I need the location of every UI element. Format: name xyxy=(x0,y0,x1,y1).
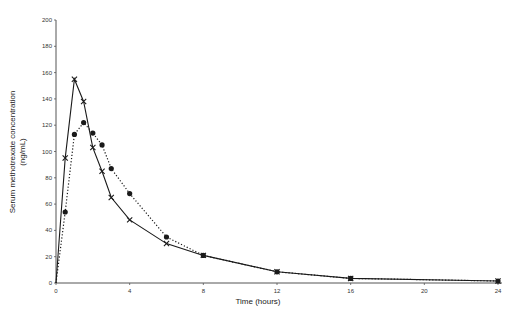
data-point-circle xyxy=(63,209,68,214)
series-line xyxy=(56,79,498,283)
data-point-circle xyxy=(495,278,500,283)
data-point-circle xyxy=(81,120,86,125)
data-point-circle xyxy=(274,269,279,274)
data-point-circle xyxy=(99,142,104,147)
series-layer xyxy=(56,77,501,284)
y-tick-label: 160 xyxy=(42,70,53,76)
y-axis-title: Serum methotrexate concentration xyxy=(8,91,17,214)
x-axis-title: Time (hours) xyxy=(235,297,280,306)
series-line xyxy=(56,123,498,283)
data-point-circle xyxy=(127,191,132,196)
series-solid-x xyxy=(56,77,501,284)
data-point-circle xyxy=(348,276,353,281)
x-tick-label: 24 xyxy=(495,288,502,294)
data-point-circle xyxy=(164,234,169,239)
x-tick-label: 8 xyxy=(202,288,206,294)
data-point-x xyxy=(127,217,132,222)
y-tick-label: 20 xyxy=(45,254,52,260)
x-tick-label: 0 xyxy=(54,288,58,294)
x-tick-label: 20 xyxy=(421,288,428,294)
pharmacokinetic-line-chart: 02040608010012014016018020004812162024 S… xyxy=(0,0,519,322)
x-tick-label: 12 xyxy=(274,288,281,294)
y-tick-label: 200 xyxy=(42,17,53,23)
x-tick-label: 4 xyxy=(128,288,132,294)
data-point-x xyxy=(109,195,114,200)
series-dotted-circle xyxy=(56,120,501,284)
x-tick-label: 16 xyxy=(347,288,354,294)
axes: 02040608010012014016018020004812162024 xyxy=(42,17,502,294)
y-tick-label: 120 xyxy=(42,122,53,128)
y-tick-label: 60 xyxy=(45,201,52,207)
data-point-circle xyxy=(109,166,114,171)
data-point-circle xyxy=(201,253,206,258)
y-tick-label: 80 xyxy=(45,175,52,181)
data-point-x xyxy=(164,241,169,246)
data-point-x xyxy=(99,169,104,174)
data-point-circle xyxy=(90,130,95,135)
y-tick-label: 140 xyxy=(42,96,53,102)
y-tick-label: 100 xyxy=(42,149,53,155)
y-axis-unit: (ng/mL) xyxy=(18,138,27,166)
y-tick-label: 40 xyxy=(45,227,52,233)
y-tick-label: 180 xyxy=(42,43,53,49)
data-point-circle xyxy=(72,132,77,137)
y-tick-label: 0 xyxy=(49,280,53,286)
